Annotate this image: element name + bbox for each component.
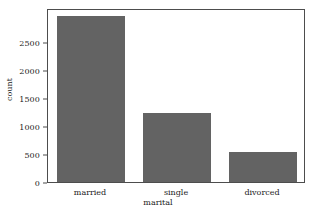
y-tick-label: 1000 xyxy=(19,122,40,131)
y-axis-title: count xyxy=(5,62,14,118)
bar-chart-figure: 05001000150020002500 count marital marri… xyxy=(0,0,316,218)
x-tick-label: married xyxy=(74,188,106,197)
x-axis-title: marital xyxy=(0,198,316,207)
bar-divorced xyxy=(229,152,298,182)
y-tick-label: 0 xyxy=(35,179,40,188)
plot-area xyxy=(47,9,305,183)
y-tick-label: 2500 xyxy=(19,38,40,47)
x-tick-label: divorced xyxy=(244,188,279,197)
bar-married xyxy=(57,16,126,182)
bar-single xyxy=(143,113,212,182)
y-tick-label: 1500 xyxy=(19,94,40,103)
x-tick-label: single xyxy=(164,188,188,197)
y-tick-label: 2000 xyxy=(19,66,40,75)
y-tick-label: 500 xyxy=(24,150,40,159)
